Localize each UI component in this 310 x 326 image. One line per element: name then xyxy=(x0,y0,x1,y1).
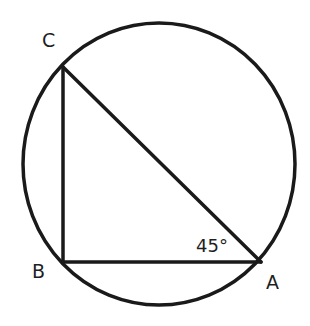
geometry-diagram: C B A 45° xyxy=(0,0,310,326)
angle-label-a: 45° xyxy=(196,235,228,256)
vertex-label-b: B xyxy=(32,260,45,282)
vertex-label-a: A xyxy=(266,271,279,293)
vertex-label-c: C xyxy=(42,29,55,51)
segment-ca xyxy=(63,67,261,262)
